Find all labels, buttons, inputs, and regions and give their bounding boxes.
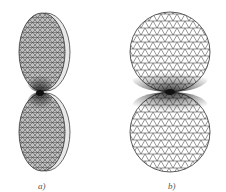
contact-point bbox=[36, 90, 44, 96]
lower-disk-refined-mesh-shading bbox=[132, 92, 208, 120]
upper-disk-refined-mesh-shading bbox=[132, 64, 208, 92]
lower-disk-contact-shading bbox=[26, 92, 54, 120]
caption-b: b) bbox=[168, 181, 176, 191]
figure-b-front-disks: b) bbox=[113, 0, 226, 192]
front-disks-mesh-illustration bbox=[113, 0, 226, 192]
figure-a-tilted-disks: a) bbox=[0, 0, 113, 192]
contact-point bbox=[165, 89, 175, 95]
tilted-disks-mesh-illustration bbox=[0, 0, 113, 192]
caption-a: a) bbox=[38, 181, 46, 191]
upper-disk-contact-shading bbox=[26, 64, 54, 92]
